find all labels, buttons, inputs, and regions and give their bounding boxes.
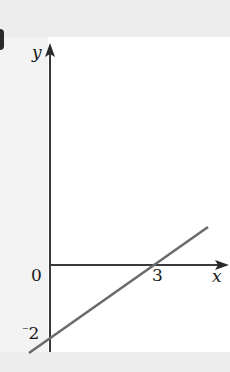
graph-figure: y x 0 3 ⁻2: [0, 0, 230, 372]
y-axis-label: y: [32, 44, 42, 61]
x-axis-label: x: [212, 268, 222, 285]
y-intercept-value: 2: [28, 323, 39, 343]
origin-label: 0: [31, 267, 42, 284]
plotted-line: [29, 227, 208, 353]
y-intercept-label: ⁻2: [22, 324, 39, 342]
x-intercept-label: 3: [152, 267, 163, 284]
